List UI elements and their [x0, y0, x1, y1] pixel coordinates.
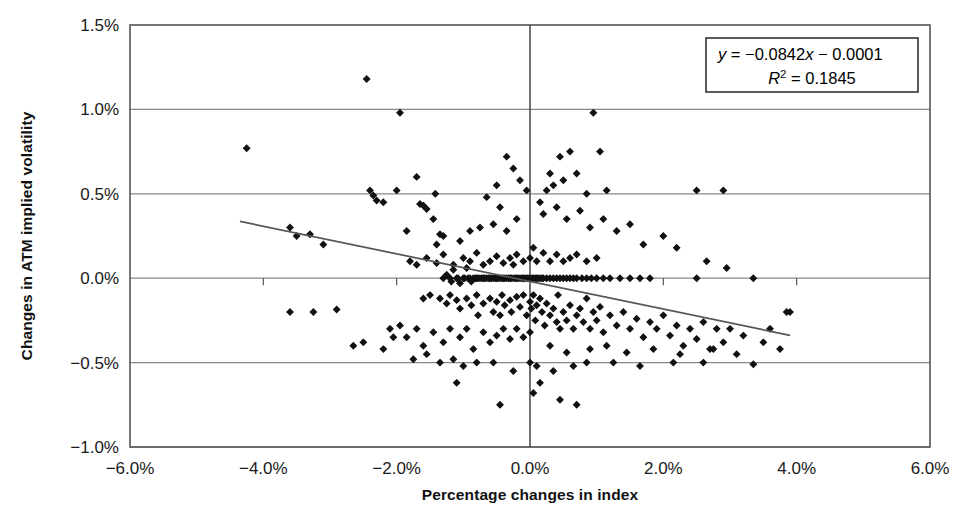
- x-tick-label: 6.0%: [911, 459, 950, 478]
- scatter-chart: −6.0%−4.0%−2.0%0.0%2.0%4.0%6.0% −1.0%−0.…: [0, 0, 969, 530]
- x-tick-label: 0.0%: [511, 459, 550, 478]
- x-tick-label: −4.0%: [239, 459, 288, 478]
- x-axis-title: Percentage changes in index: [422, 486, 639, 503]
- chart-canvas: −6.0%−4.0%−2.0%0.0%2.0%4.0%6.0% −1.0%−0.…: [0, 0, 969, 530]
- y-tick-label: 0.0%: [80, 269, 119, 288]
- equation-slope-part: = −0.0842: [726, 45, 805, 63]
- y-tick-label: −1.0%: [70, 438, 119, 457]
- x-tick-label: 4.0%: [777, 459, 816, 478]
- x-tick-label: −2.0%: [372, 459, 421, 478]
- x-tick-label: −6.0%: [106, 459, 155, 478]
- y-axis-title: Changes in ATM implied volatility: [18, 111, 35, 360]
- y-tick-label: 1.0%: [80, 100, 119, 119]
- y-tick-label: 0.5%: [80, 185, 119, 204]
- regression-equation-text: y = −0.0842x − 0.0001: [717, 45, 883, 63]
- y-tick-label: 1.5%: [80, 16, 119, 35]
- y-tick-label: −0.5%: [70, 354, 119, 373]
- r-squared-value: = 0.1845: [787, 69, 856, 87]
- equation-intercept-part: − 0.0001: [813, 45, 882, 63]
- x-tick-label: 2.0%: [644, 459, 683, 478]
- equation-annotation-box: y = −0.0842x − 0.0001 R2 = 0.1845: [706, 38, 918, 92]
- r-symbol: R: [768, 69, 780, 87]
